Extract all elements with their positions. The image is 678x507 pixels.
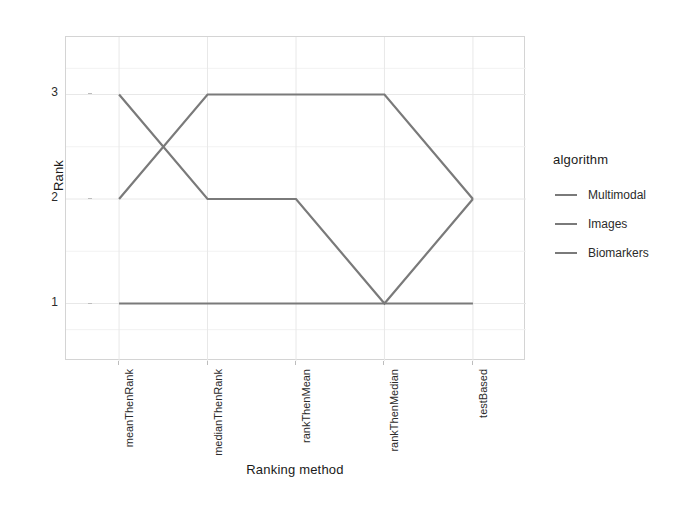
legend-swatch (555, 252, 577, 254)
legend-key-line-icon (553, 217, 579, 231)
y-tick-mark (88, 93, 92, 94)
x-axis-ticks: meanThenRankmedianThenRankrankThenMeanra… (65, 361, 525, 461)
x-tick-label: rankThenMean (300, 369, 312, 443)
legend-label: Biomarkers (588, 246, 649, 260)
x-tick-mark (383, 361, 384, 365)
legend-title: algorithm (553, 152, 673, 167)
x-axis-title: Ranking method (65, 462, 525, 477)
y-tick-label: 1 (28, 295, 58, 309)
legend-key-line-icon (553, 246, 579, 260)
x-tick-mark (295, 361, 296, 365)
chart-figure: Rank 321 meanThenRankmedianThenRankrankT… (0, 0, 678, 507)
y-tick-label: 2 (28, 190, 58, 204)
legend-swatch (555, 194, 577, 196)
x-tick-label: rankThenMedian (388, 369, 400, 452)
x-tick-label: medianThenRank (212, 369, 224, 456)
plot-area (66, 37, 526, 361)
plot-panel (65, 36, 525, 360)
x-tick-label: testBased (477, 369, 489, 418)
y-axis-ticks: 321 (28, 36, 58, 360)
legend-label: Multimodal (588, 188, 646, 202)
legend-item-images[interactable]: Images (553, 209, 673, 238)
legend-key-line-icon (553, 188, 579, 202)
legend-item-multimodal[interactable]: Multimodal (553, 180, 673, 209)
y-tick-label: 3 (28, 85, 58, 99)
y-tick-mark (88, 303, 92, 304)
x-tick-mark (207, 361, 208, 365)
legend-items: MultimodalImagesBiomarkers (553, 180, 673, 267)
legend-swatch (555, 223, 577, 225)
legend-label: Images (588, 217, 627, 231)
legend-item-biomarkers[interactable]: Biomarkers (553, 238, 673, 267)
x-tick-mark (118, 361, 119, 365)
legend: algorithm MultimodalImagesBiomarkers (553, 152, 673, 267)
x-tick-mark (472, 361, 473, 365)
y-tick-mark (88, 198, 92, 199)
x-tick-label: meanThenRank (123, 369, 135, 447)
